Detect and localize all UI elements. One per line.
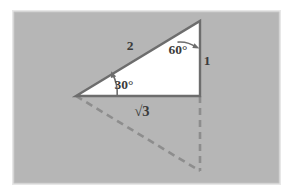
label-base-side: √3	[134, 103, 149, 119]
panel-background	[13, 11, 280, 184]
figure-container: 2 1 √3 60° 30°	[0, 0, 293, 195]
label-angle-apex: 60°	[169, 42, 188, 57]
geometry-figure: 2 1 √3 60° 30°	[0, 0, 293, 195]
label-angle-left: 30°	[115, 77, 134, 92]
label-vertical-side: 1	[204, 53, 211, 68]
label-hypotenuse: 2	[127, 38, 134, 53]
